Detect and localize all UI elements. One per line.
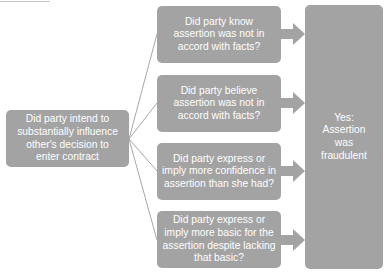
connector-line-2 (129, 103, 157, 139)
question-line: Did party express or (162, 153, 276, 166)
result-line: fraudulent (321, 150, 367, 163)
arrow-2 (281, 92, 305, 114)
question-line: accord with facts? (173, 41, 264, 54)
result-line: Assertion (321, 124, 367, 137)
question-line: assertion was not in (173, 28, 264, 41)
question-line: Did party know (173, 16, 264, 29)
question-line: imply more basic for the (163, 227, 276, 240)
result-line: Yes: (321, 112, 367, 125)
question-line: Did party believe (173, 85, 264, 98)
arrow-3 (281, 160, 305, 182)
question-line: Did party express or (163, 214, 276, 227)
start-line: Did party intend to (17, 113, 118, 126)
start-line: other's decision to (17, 139, 118, 152)
result-box: Yes: Assertion was fraudulent (305, 5, 383, 269)
arrow-1 (281, 23, 305, 45)
arrow-4 (281, 229, 305, 251)
question-box-knew: Did party know assertion was not in acco… (157, 6, 281, 63)
start-line: substantially influence (17, 126, 118, 139)
start-question-box: Did party intend to substantially influe… (6, 110, 129, 167)
question-line: assertion than she had? (162, 178, 276, 191)
connector-line-1 (129, 34, 157, 139)
question-box-confidence: Did party express or imply more confiden… (157, 143, 281, 200)
question-box-believed: Did party believe assertion was not in a… (157, 75, 281, 132)
question-line: imply more confidence in (162, 165, 276, 178)
question-box-basis: Did party express or imply more basic fo… (157, 211, 281, 268)
question-line: that basic? (163, 252, 276, 265)
result-line: was (321, 137, 367, 150)
question-line: accord with facts? (173, 110, 264, 123)
question-line: assertion despite lacking (163, 240, 276, 253)
question-line: assertion was not in (173, 97, 264, 110)
start-line: enter contract (17, 151, 118, 164)
connector-line-4 (129, 139, 157, 240)
